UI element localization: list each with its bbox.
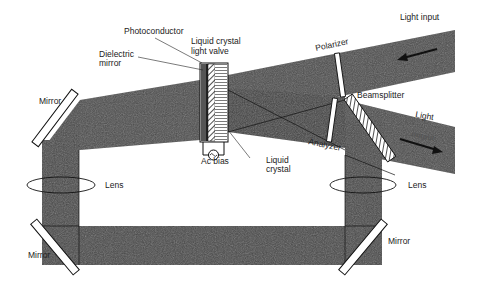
- label-ac-bias: Ac bias: [201, 156, 229, 166]
- liquid-crystal-light-valve: [200, 63, 228, 160]
- left-vertical-beam: [42, 140, 79, 265]
- label-polarizer: Polarizer: [314, 36, 349, 53]
- glass-layer: [215, 64, 227, 141]
- label-mirror-top-left: Mirror: [39, 96, 61, 106]
- bottom-horizontal-beam: [79, 226, 345, 265]
- dielectric-mirror-layer: [206, 64, 208, 141]
- label-lc-light-valve-1: Liquid crystal: [191, 36, 241, 46]
- label-lens-left: Lens: [105, 180, 123, 190]
- label-lc-light-valve-2: light valve: [191, 46, 229, 56]
- optical-ring-resonator-diagram: Photoconductor Liquid crystal light valv…: [0, 0, 478, 297]
- label-mirror-bottom-right: Mirror: [388, 236, 410, 246]
- photoconductor-layer: [201, 64, 206, 141]
- upper-left-beam: [80, 80, 200, 150]
- label-mirror-bottom-left: Mirror: [28, 250, 50, 260]
- label-dielectric-mirror-2: mirror: [99, 58, 121, 68]
- liquid-crystal-layer: [208, 64, 215, 141]
- label-photoconductor: Photoconductor: [124, 26, 184, 36]
- label-liquid-crystal-2: crystal: [266, 164, 291, 174]
- label-light-input: Light input: [400, 12, 440, 22]
- label-lens-right: Lens: [408, 180, 426, 190]
- label-beamsplitter: Beamsplitter: [357, 90, 404, 100]
